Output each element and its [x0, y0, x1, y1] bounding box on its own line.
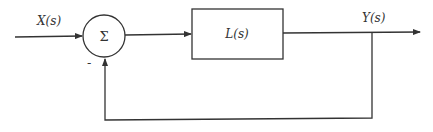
- output-label: Y(s): [362, 11, 386, 25]
- input-arrow: [15, 36, 82, 37]
- feedback-path: [105, 33, 372, 120]
- block-diagram: X(s) Σ - L(s) Y(s): [0, 0, 433, 132]
- feedback-minus-sign: -: [87, 56, 91, 70]
- sigma-symbol: Σ: [99, 29, 108, 44]
- output-arrow: [283, 32, 420, 33]
- input-label: X(s): [36, 14, 61, 28]
- junction-to-block-arrow: [125, 34, 191, 35]
- block-label: L(s): [224, 27, 249, 41]
